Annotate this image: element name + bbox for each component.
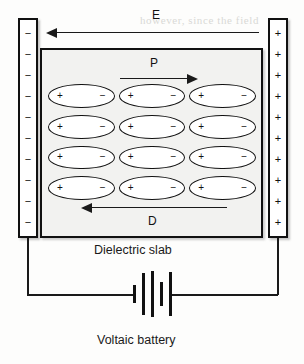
p-polarization-arrow-line — [120, 78, 188, 79]
voltaic-battery-symbol — [131, 265, 175, 325]
dipole-negative-charge: − — [241, 122, 247, 132]
dipole-negative-charge: − — [170, 91, 176, 101]
positive-plate-charges: ++++++++++ — [270, 20, 286, 236]
voltaic-battery-caption: Voltaic battery — [97, 333, 176, 347]
dipole-r3-c0: +− — [48, 176, 115, 200]
dipole-r0-c2: +− — [189, 84, 256, 108]
dipole-r0-c0: +− — [48, 84, 115, 108]
dipole-negative-charge: − — [241, 183, 247, 193]
dipole-positive-charge: + — [128, 183, 134, 193]
dipole-negative-charge: − — [170, 152, 176, 162]
positive-charge-symbol-4: + — [275, 112, 281, 123]
dipole-negative-charge: − — [170, 122, 176, 132]
dipole-negative-charge: − — [100, 91, 106, 101]
battery-plate-0 — [133, 285, 136, 303]
wire-left-vertical — [27, 238, 29, 295]
negative-charge-symbol-8: − — [25, 196, 31, 207]
negative-plate-charges: −−−−−−−−−− — [20, 20, 36, 236]
dipole-r2-c1: +− — [119, 146, 186, 170]
negative-plate: −−−−−−−−−− — [18, 18, 38, 238]
negative-charge-symbol-7: − — [25, 175, 31, 186]
dipole-negative-charge: − — [100, 152, 106, 162]
battery-plate-2 — [151, 271, 154, 317]
wire-right-vertical — [277, 238, 279, 295]
dipole-positive-charge: + — [57, 183, 63, 193]
dipole-r3-c2: +− — [189, 176, 256, 200]
negative-charge-symbol-3: − — [25, 91, 31, 102]
dipole-r1-c2: +− — [189, 115, 256, 139]
positive-charge-symbol-1: + — [275, 49, 281, 60]
dipole-positive-charge: + — [128, 91, 134, 101]
battery-plate-3 — [160, 282, 163, 306]
dipole-r2-c2: +− — [189, 146, 256, 170]
negative-charge-symbol-5: − — [25, 133, 31, 144]
positive-charge-symbol-2: + — [275, 70, 281, 81]
dipole-positive-charge: + — [128, 152, 134, 162]
positive-charge-symbol-6: + — [275, 154, 281, 165]
p-polarization-label: P — [150, 56, 158, 70]
dipole-negative-charge: − — [241, 91, 247, 101]
dipole-r2-c0: +− — [48, 146, 115, 170]
dipole-positive-charge: + — [57, 91, 63, 101]
p-polarization-arrow-head — [187, 74, 198, 84]
battery-plate-4 — [169, 272, 172, 316]
d-field-arrow-head — [81, 203, 92, 213]
positive-charge-symbol-5: + — [275, 133, 281, 144]
battery-plate-1 — [142, 273, 145, 315]
dipole-negative-charge: − — [100, 183, 106, 193]
negative-charge-symbol-1: − — [25, 49, 31, 60]
wire-bottom-right — [171, 294, 278, 296]
negative-charge-symbol-9: − — [25, 217, 31, 228]
negative-charge-symbol-2: − — [25, 70, 31, 81]
e-field-label: E — [152, 8, 160, 22]
dipole-grid: +−+−+−+−+−+−+−+−+−+−+−+− — [48, 84, 256, 200]
dipole-positive-charge: + — [57, 122, 63, 132]
negative-charge-symbol-6: − — [25, 154, 31, 165]
dipole-positive-charge: + — [198, 152, 204, 162]
dipole-negative-charge: − — [100, 122, 106, 132]
e-field-arrow-line — [57, 32, 259, 33]
dipole-positive-charge: + — [128, 122, 134, 132]
d-field-label: D — [148, 214, 157, 228]
positive-charge-symbol-0: + — [275, 28, 281, 39]
wire-bottom-left — [27, 294, 133, 296]
dipole-positive-charge: + — [198, 91, 204, 101]
dipole-r1-c0: +− — [48, 115, 115, 139]
positive-charge-symbol-7: + — [275, 175, 281, 186]
dielectric-slab-caption: Dielectric slab — [94, 243, 172, 257]
positive-plate: ++++++++++ — [268, 18, 288, 238]
d-field-arrow-line — [92, 207, 227, 208]
dipole-positive-charge: + — [198, 183, 204, 193]
dipole-r0-c1: +− — [119, 84, 186, 108]
capacitor-dielectric-diagram: however, since the field domain the dire… — [0, 0, 304, 364]
positive-charge-symbol-3: + — [275, 91, 281, 102]
negative-charge-symbol-4: − — [25, 112, 31, 123]
dipole-negative-charge: − — [241, 152, 247, 162]
dipole-r3-c1: +− — [119, 176, 186, 200]
positive-charge-symbol-8: + — [275, 196, 281, 207]
dipole-positive-charge: + — [198, 122, 204, 132]
positive-charge-symbol-9: + — [275, 217, 281, 228]
e-field-arrow-head — [46, 28, 57, 38]
dipole-r1-c1: +− — [119, 115, 186, 139]
dipole-positive-charge: + — [57, 152, 63, 162]
dipole-negative-charge: − — [170, 183, 176, 193]
negative-charge-symbol-0: − — [25, 28, 31, 39]
